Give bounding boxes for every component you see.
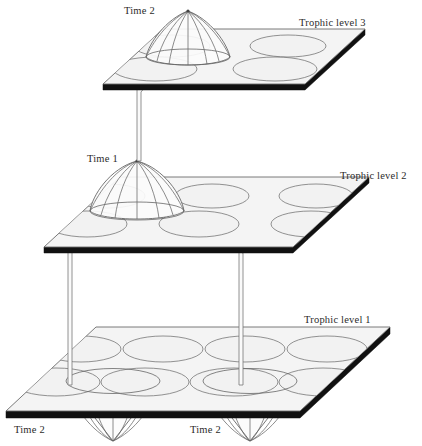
patch: [41, 336, 121, 362]
patch: [205, 336, 285, 362]
patch: [250, 35, 326, 57]
label-time-2-bottom-left: Time 2: [14, 424, 45, 435]
diagram-canvas: Time 2 Trophic level 3 Time 1 Trophic le…: [0, 0, 422, 446]
patch: [175, 184, 249, 208]
cone-up-time-2-top: [146, 9, 230, 65]
trophic-level-2-group: [44, 159, 369, 253]
label-time-2-top: Time 2: [124, 5, 155, 16]
label-time-2-bottom-right: Time 2: [190, 424, 221, 435]
label-time-1-middle: Time 1: [87, 153, 118, 164]
label-trophic-level-2: Trophic level 2: [340, 170, 407, 181]
patch: [123, 336, 203, 362]
label-trophic-level-1: Trophic level 1: [304, 314, 371, 325]
label-trophic-level-3: Trophic level 3: [299, 17, 366, 28]
patch: [233, 57, 317, 81]
patch: [287, 336, 367, 362]
cone-up-time-1: [90, 159, 184, 220]
trophic-levels-diagram: [0, 0, 422, 446]
